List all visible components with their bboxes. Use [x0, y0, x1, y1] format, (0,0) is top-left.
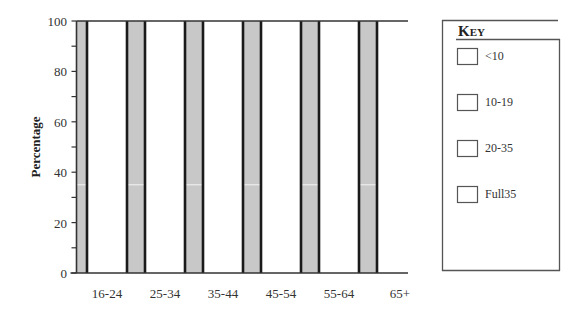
y-axis-title: Percentage: [28, 116, 43, 177]
bar-25-34: [145, 21, 185, 273]
y-tick-label: 0: [61, 266, 68, 281]
y-tick-label: 20: [54, 216, 67, 231]
y-axis: 020406080100: [48, 14, 77, 281]
bar-16-24: [87, 21, 127, 273]
y-tick-label: 60: [54, 115, 67, 130]
x-tick-label: 65+: [390, 286, 410, 301]
legend-entry-label: 10-19: [485, 95, 513, 109]
legend-swatch: [458, 95, 478, 111]
stacked-bar-chart: 020406080100 16-2425-3435-4445-5455-6465…: [0, 0, 588, 316]
legend-swatch: [458, 187, 478, 203]
legend-entry-label: Full35: [485, 187, 516, 201]
x-tick-label: 55-64: [324, 286, 355, 301]
x-tick-label: 25-34: [150, 286, 181, 301]
legend-entry-label: 20-35: [485, 141, 513, 155]
y-tick-label: 100: [48, 14, 68, 29]
legend-swatch: [458, 141, 478, 157]
bar-35-44: [203, 21, 243, 273]
plot-area: [77, 21, 409, 273]
x-tick-label: 16-24: [92, 286, 123, 301]
y-tick-label: 40: [54, 165, 67, 180]
bar-45-54: [261, 21, 301, 273]
legend: KEY <1010-1920-35Full35: [442, 20, 560, 271]
bar-65+: [377, 21, 408, 273]
y-tick-label: 80: [54, 64, 67, 79]
x-tick-label: 35-44: [208, 286, 239, 301]
x-axis: 16-2425-3435-4445-5455-6465+: [71, 273, 411, 301]
legend-entry-label: <10: [485, 49, 504, 63]
legend-swatch: [458, 49, 478, 65]
legend-title: KEY: [458, 23, 485, 39]
x-tick-label: 45-54: [266, 286, 297, 301]
bar-55-64: [319, 21, 359, 273]
